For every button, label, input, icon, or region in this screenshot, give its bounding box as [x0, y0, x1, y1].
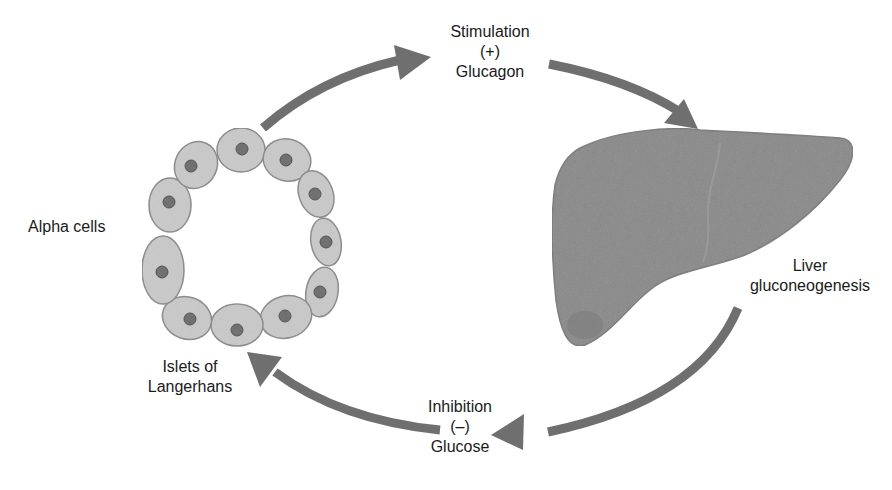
alpha-cell	[142, 236, 184, 304]
alpha-cell	[307, 216, 345, 268]
gluconeogenesis-text: gluconeogenesis	[740, 276, 880, 296]
alpha-cell	[217, 128, 265, 172]
alpha-cells-label: Alpha cells	[28, 217, 105, 237]
inhibition-label: Inhibition (–) Glucose	[405, 397, 515, 457]
alpha-cell	[211, 304, 263, 346]
inhibition-sign: (–)	[405, 417, 515, 437]
liver-illustration	[552, 129, 853, 346]
liver-label: Liver gluconeogenesis	[740, 256, 880, 296]
inhibition-text: Inhibition	[405, 397, 515, 417]
langerhans-text: Langerhans	[125, 377, 255, 397]
stimulation-text: Stimulation	[420, 22, 560, 42]
glucagon-text: Glucagon	[420, 62, 560, 82]
stimulation-arrow	[263, 45, 431, 128]
glucose-text: Glucose	[405, 437, 515, 457]
stimulation-label: Stimulation (+) Glucagon	[420, 22, 560, 82]
islets-of-text: Islets of	[125, 357, 255, 377]
liver-to-glucose-arrow	[491, 308, 738, 450]
liver-text: Liver	[740, 256, 880, 276]
islet-alpha-cells	[142, 128, 345, 346]
stimulation-sign: (+)	[420, 42, 560, 62]
glucagon-to-liver-arrow	[549, 64, 698, 129]
islets-label: Islets of Langerhans	[125, 357, 255, 397]
